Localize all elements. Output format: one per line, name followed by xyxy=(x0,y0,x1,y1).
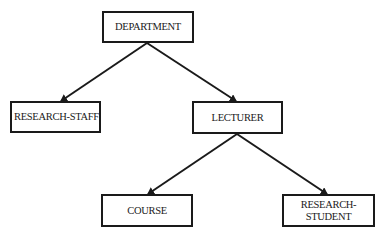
node-course: COURSE xyxy=(101,194,193,227)
node-label: DEPARTMENT xyxy=(115,21,181,32)
node-department: DEPARTMENT xyxy=(102,11,194,43)
node-research-student: RESEARCH- STUDENT xyxy=(282,194,375,227)
node-label: LECTURER xyxy=(212,112,264,123)
edge-lecturer-course xyxy=(148,134,237,194)
edge-lecturer-research-student xyxy=(237,134,327,194)
node-lecturer: LECTURER xyxy=(192,101,283,134)
edge-department-lecturer xyxy=(147,43,236,101)
node-label: RESEARCH-STAFF xyxy=(14,111,99,122)
node-label: RESEARCH- STUDENT xyxy=(301,199,357,221)
node-label: COURSE xyxy=(127,205,167,216)
node-research-staff: RESEARCH-STAFF xyxy=(10,101,101,133)
edge-department-research-staff xyxy=(61,43,147,101)
